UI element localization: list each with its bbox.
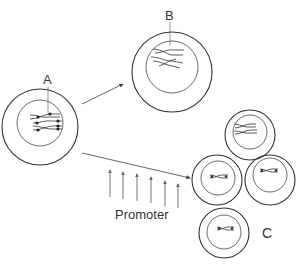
- cell-division-diagram: [0, 0, 300, 268]
- promoter-arrows: [110, 170, 178, 208]
- cell-b: [132, 22, 212, 112]
- chromosomes-b: [151, 49, 184, 68]
- label-c: C: [262, 226, 272, 240]
- label-a: A: [43, 73, 52, 86]
- arrow-a-to-b: [82, 84, 123, 104]
- label-promoter: Promoter: [115, 208, 168, 221]
- cell-a: [2, 87, 78, 165]
- cell-cluster-c: [192, 110, 295, 258]
- label-b: B: [165, 9, 174, 22]
- chromosomes-a: [30, 112, 62, 131]
- arrow-a-to-c: [82, 153, 190, 178]
